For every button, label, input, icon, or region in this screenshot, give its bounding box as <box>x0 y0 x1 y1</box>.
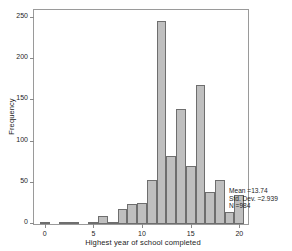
histogram-bar <box>205 192 215 224</box>
histogram-figure: Frequency 050100150200250 05101520 Highe… <box>0 0 292 251</box>
y-axis-tick: 200 <box>30 58 34 59</box>
y-axis-tick: 100 <box>30 141 34 142</box>
statistics-annotation: Mean =13.74 Std. Dev. =2.939 N =984 <box>229 187 278 210</box>
y-axis-tick-label: 150 <box>16 94 28 101</box>
x-axis-tick-label: 10 <box>138 230 146 237</box>
y-axis-tick: 250 <box>30 17 34 18</box>
histogram-bar <box>108 222 118 224</box>
std-dev-value: Std. Dev. =2.939 <box>229 195 278 203</box>
y-axis-tick-label: 0 <box>24 218 28 225</box>
mean-value: Mean =13.74 <box>229 187 278 195</box>
histogram-bar <box>186 166 196 224</box>
histogram-bar <box>98 216 108 224</box>
x-axis-tick-label: 5 <box>91 230 95 237</box>
histogram-bar <box>166 156 176 224</box>
y-axis-tick: 0 <box>30 223 34 224</box>
y-axis-tick: 150 <box>30 99 34 100</box>
y-axis-title: Frequency <box>7 72 16 162</box>
plot-area <box>34 10 248 224</box>
x-axis-title: Highest year of school completed <box>33 238 253 247</box>
y-axis-tick-label: 50 <box>20 177 28 184</box>
y-axis-tick: 50 <box>30 182 34 183</box>
x-axis-tick-label: 15 <box>187 230 195 237</box>
histogram-bar <box>157 21 167 224</box>
x-axis-tick-label: 20 <box>235 230 243 237</box>
x-axis-tick-label: 0 <box>43 230 47 237</box>
y-axis-tick-label: 250 <box>16 12 28 19</box>
x-axis-tick: 20 <box>239 224 240 228</box>
x-axis-tick: 15 <box>191 224 192 228</box>
histogram-bar <box>147 180 157 224</box>
histogram-bar <box>127 204 137 224</box>
y-axis-tick-label: 100 <box>16 136 28 143</box>
histogram-bar <box>176 109 186 224</box>
histogram-bar <box>215 180 225 224</box>
histogram-bar <box>225 212 235 224</box>
histogram-bar <box>69 222 79 224</box>
x-axis-tick: 10 <box>142 224 143 228</box>
histogram-bar <box>137 203 147 224</box>
histogram-bar <box>59 222 69 224</box>
x-axis-tick: 0 <box>45 224 46 228</box>
sample-size-value: N =984 <box>229 202 278 210</box>
x-axis-tick: 5 <box>93 224 94 228</box>
plot-frame: 050100150200250 05101520 <box>33 9 249 225</box>
histogram-bar <box>196 85 206 224</box>
y-axis-tick-label: 200 <box>16 53 28 60</box>
histogram-bar <box>118 209 128 224</box>
